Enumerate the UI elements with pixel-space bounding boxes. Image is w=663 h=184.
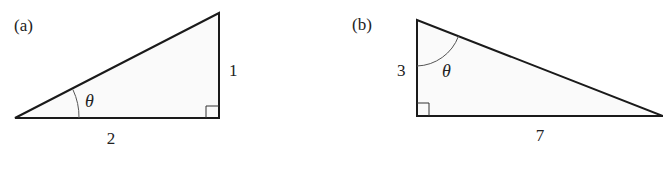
height-label-b: 3 xyxy=(397,61,406,80)
triangle-a xyxy=(15,13,219,118)
angle-label-b: θ xyxy=(442,61,451,81)
angle-label-a: θ xyxy=(85,91,94,111)
figure-b: (b) θ 7 3 xyxy=(352,15,663,145)
figure-a: (a) θ 2 1 xyxy=(14,13,238,148)
base-label-a: 2 xyxy=(107,129,116,148)
panel-label-b: (b) xyxy=(352,15,372,34)
panel-label-a: (a) xyxy=(14,16,33,35)
height-label-a: 1 xyxy=(229,61,238,80)
triangle-b xyxy=(417,20,663,116)
base-label-b: 7 xyxy=(536,126,545,145)
diagram-canvas: (a) θ 2 1 (b) θ 7 3 xyxy=(0,0,663,184)
